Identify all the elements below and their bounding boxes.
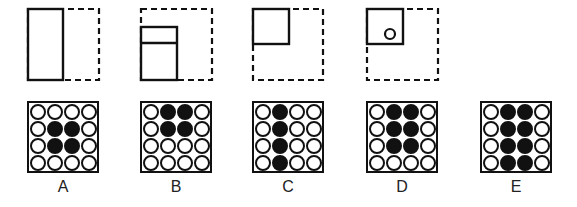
empty-dot: [64, 155, 80, 171]
empty-dot: [177, 155, 193, 171]
filled-dot: [500, 121, 516, 137]
empty-dot: [143, 155, 159, 171]
empty-dot: [194, 104, 210, 120]
empty-dot: [30, 155, 46, 171]
solid-rectangle: [28, 9, 63, 80]
filled-dot: [272, 138, 288, 154]
empty-dot: [160, 155, 176, 171]
empty-dot: [534, 138, 550, 154]
filled-dot: [386, 104, 402, 120]
figure-a: [28, 9, 99, 80]
empty-dot: [143, 104, 159, 120]
empty-dot: [306, 121, 322, 137]
empty-dot: [386, 155, 402, 171]
filled-dot: [47, 121, 63, 137]
empty-dot: [420, 155, 436, 171]
empty-dot: [483, 121, 499, 137]
empty-dot: [81, 155, 97, 171]
empty-dot: [143, 138, 159, 154]
filled-dot: [403, 104, 419, 120]
empty-dot: [81, 104, 97, 120]
empty-dot: [369, 155, 385, 171]
filled-dot: [500, 138, 516, 154]
empty-dot: [255, 121, 271, 137]
figure-b: [141, 9, 212, 80]
empty-dot: [483, 155, 499, 171]
top-figures: [0, 0, 577, 100]
filled-dot: [517, 121, 533, 137]
empty-dot: [255, 138, 271, 154]
empty-dot: [483, 104, 499, 120]
filled-dot: [517, 138, 533, 154]
figure-c: [253, 9, 323, 80]
empty-dot: [534, 121, 550, 137]
option-label: B: [156, 178, 196, 196]
empty-dot: [255, 104, 271, 120]
empty-dot: [47, 104, 63, 120]
solid-rectangle: [367, 9, 403, 44]
empty-dot: [81, 138, 97, 154]
empty-dot: [81, 121, 97, 137]
empty-dot: [30, 138, 46, 154]
empty-dot: [306, 104, 322, 120]
empty-dot: [255, 155, 271, 171]
empty-dot: [369, 121, 385, 137]
empty-dot: [194, 138, 210, 154]
empty-dot: [420, 138, 436, 154]
solid-rectangle: [253, 9, 289, 44]
option-grid-b[interactable]: [140, 101, 212, 173]
empty-dot: [143, 121, 159, 137]
filled-dot: [64, 138, 80, 154]
option-grid-d[interactable]: [366, 101, 438, 173]
empty-dot: [483, 138, 499, 154]
filled-dot: [403, 138, 419, 154]
option-label: E: [496, 178, 536, 196]
filled-dot: [500, 104, 516, 120]
empty-dot: [306, 155, 322, 171]
option-label: C: [268, 178, 308, 196]
empty-dot: [420, 121, 436, 137]
filled-dot: [272, 155, 288, 171]
empty-dot: [30, 121, 46, 137]
empty-dot: [194, 155, 210, 171]
filled-dot: [64, 121, 80, 137]
filled-dot: [403, 121, 419, 137]
filled-dot: [386, 121, 402, 137]
option-grid-e[interactable]: [480, 101, 552, 173]
filled-dot: [272, 104, 288, 120]
empty-dot: [420, 104, 436, 120]
empty-dot: [369, 104, 385, 120]
filled-dot: [500, 155, 516, 171]
circle-icon: [385, 29, 395, 39]
empty-dot: [534, 155, 550, 171]
solid-rectangle: [141, 27, 177, 80]
empty-dot: [64, 104, 80, 120]
empty-dot: [160, 138, 176, 154]
filled-dot: [160, 104, 176, 120]
filled-dot: [160, 121, 176, 137]
empty-dot: [177, 138, 193, 154]
empty-dot: [289, 155, 305, 171]
option-label: D: [382, 178, 422, 196]
filled-dot: [177, 104, 193, 120]
filled-dot: [177, 121, 193, 137]
empty-dot: [289, 138, 305, 154]
option-grid-a[interactable]: [27, 101, 99, 173]
empty-dot: [403, 155, 419, 171]
filled-dot: [517, 155, 533, 171]
filled-dot: [386, 138, 402, 154]
empty-dot: [30, 104, 46, 120]
filled-dot: [517, 104, 533, 120]
filled-dot: [47, 138, 63, 154]
empty-dot: [194, 121, 210, 137]
empty-dot: [534, 104, 550, 120]
filled-dot: [272, 121, 288, 137]
figure-d: [367, 9, 438, 80]
empty-dot: [289, 104, 305, 120]
empty-dot: [289, 121, 305, 137]
option-label: A: [43, 178, 83, 196]
option-grid-c[interactable]: [252, 101, 324, 173]
empty-dot: [47, 155, 63, 171]
empty-dot: [369, 138, 385, 154]
empty-dot: [306, 138, 322, 154]
